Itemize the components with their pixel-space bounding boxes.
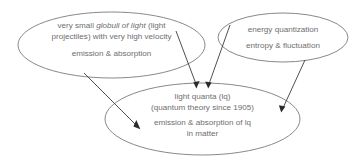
diagram-canvas <box>0 0 364 163</box>
concept-map-diagram: very small globuli of light (light proje… <box>0 0 364 163</box>
node-light-quanta <box>105 83 300 155</box>
node-globuli-of-light <box>18 12 205 78</box>
edge-globuli-to-emission-absorption <box>84 73 140 129</box>
edge-quantization-to-light-quanta-top <box>205 25 230 89</box>
node-energy-quantization <box>218 13 348 62</box>
